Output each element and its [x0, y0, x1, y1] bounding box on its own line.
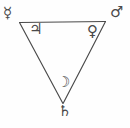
venus-icon: ♀ — [87, 24, 98, 39]
moon-icon: ☽ — [57, 75, 70, 90]
saturn-icon: ♄ — [58, 104, 71, 119]
diagram-canvas: ☿ ♂ ♃ ♀ ☽ ♄ — [0, 0, 130, 128]
mars-icon: ♂ — [110, 5, 123, 20]
mercury-icon: ☿ — [3, 6, 12, 21]
jupiter-icon: ♃ — [29, 22, 42, 37]
